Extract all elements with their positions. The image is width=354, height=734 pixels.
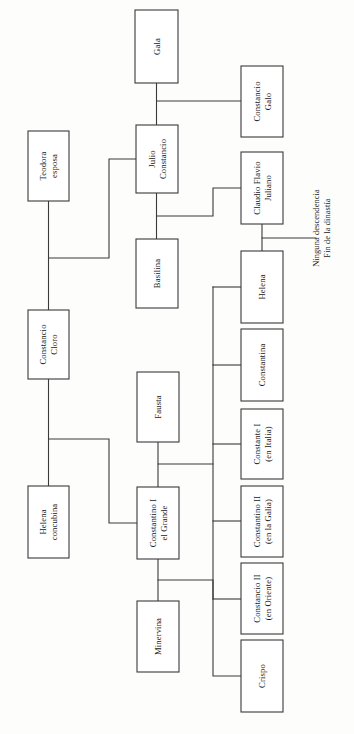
node-label-constancio-galo-line-0: Constancio: [252, 81, 262, 121]
node-constantino-ii[interactable]: Constantino II(en la Galia): [241, 486, 283, 557]
node-label-claudio-flavio-juliano-line-0: Claudio Flavio: [252, 161, 262, 214]
node-constante-i[interactable]: Constante I(en Italia): [241, 409, 283, 479]
node-julio-constancio[interactable]: JulioConstancio: [136, 125, 178, 193]
node-label-constancio-galo-line-1: Galo: [263, 93, 273, 110]
node-boxes-group: GalaConstancioGaloTeodoraesposaJulioCons…: [28, 10, 283, 712]
node-gala[interactable]: Gala: [135, 10, 178, 83]
node-constancio-ii[interactable]: Constancio II(en Oriente): [241, 563, 283, 634]
node-label-helena-hija-line-0: Helena: [257, 274, 267, 299]
node-label-constante-i-line-1: (en Italia): [263, 426, 273, 461]
node-label-julio-constancio-line-0: Julio: [147, 150, 157, 167]
node-label-helena-concubina-line-1: concubina: [49, 504, 59, 541]
node-label-constantina-line-0: Constantina: [257, 344, 267, 387]
node-label-minervina-line-0: Minervina: [153, 618, 163, 655]
node-label-teodora-esposa-line-1: esposa: [49, 154, 59, 178]
node-crispo[interactable]: Crispo: [241, 640, 283, 712]
node-label-constancio-cloro-line-0: Constancio: [38, 324, 48, 364]
node-label-constancio-ii-line-0: Constancio II: [252, 574, 262, 623]
node-teodora-esposa[interactable]: Teodoraesposa: [28, 131, 69, 201]
node-label-helena-concubina-line-0: Helena: [38, 509, 48, 534]
node-constantino-i[interactable]: Constantino Iel Grande: [137, 487, 179, 559]
node-label-constancio-cloro-line-1: Cloro: [49, 334, 59, 354]
node-label-constantino-ii-line-0: Constantino II: [252, 496, 262, 548]
node-constancio-galo[interactable]: ConstancioGalo: [241, 66, 283, 137]
node-constancio-cloro[interactable]: ConstancioCloro: [28, 310, 69, 379]
node-label-crispo-line-0: Crispo: [257, 664, 267, 688]
node-label-constancio-ii-line-1: (en Oriente): [263, 577, 273, 621]
annotations-group: Ninguna descendenciaFin de la dinastía: [312, 189, 332, 267]
genealogy-diagram: GalaConstancioGaloTeodoraesposaJulioCons…: [0, 0, 354, 734]
node-label-constante-i-line-0: Constante I: [252, 423, 262, 464]
node-fausta[interactable]: Fausta: [137, 372, 179, 442]
family-tree-canvas: GalaConstancioGaloTeodoraesposaJulioCons…: [0, 0, 354, 734]
annotation-fin-dinastia: Ninguna descendenciaFin de la dinastía: [312, 189, 332, 267]
node-label-constantino-i-line-1: el Grande: [159, 505, 169, 540]
annotation-label-fin-dinastia-line-1: Fin de la dinastía: [323, 198, 332, 257]
node-minervina[interactable]: Minervina: [137, 601, 179, 672]
node-label-constantino-ii-line-1: (en la Galia): [263, 499, 273, 544]
node-label-teodora-esposa-line-0: Teodora: [38, 151, 48, 180]
node-label-claudio-flavio-juliano-line-1: Juliano: [263, 175, 273, 201]
node-label-fausta-line-0: Fausta: [153, 395, 163, 418]
node-helena-hija[interactable]: Helena: [241, 251, 283, 323]
annotation-label-fin-dinastia-line-0: Ninguna descendencia: [312, 189, 321, 267]
node-label-basilina-line-0: Basilina: [152, 259, 162, 288]
node-basilina[interactable]: Basilina: [136, 239, 178, 308]
node-label-gala-line-0: Gala: [152, 38, 162, 55]
node-label-constantino-i-line-0: Constantino I: [148, 499, 158, 548]
node-claudio-flavio-juliano[interactable]: Claudio FlavioJuliano: [241, 152, 283, 224]
node-label-julio-constancio-line-1: Constancio: [158, 139, 168, 179]
node-helena-concubina[interactable]: Helenaconcubina: [28, 486, 69, 558]
node-constantina[interactable]: Constantina: [241, 329, 283, 401]
